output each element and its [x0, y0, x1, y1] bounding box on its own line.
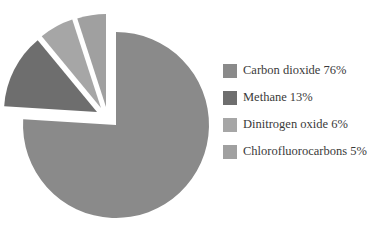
legend-swatch-icon [223, 118, 237, 132]
legend-swatch-icon [223, 64, 237, 78]
legend-item-carbon-dioxide: Carbon dioxide 76% [223, 57, 367, 84]
legend: Carbon dioxide 76% Methane 13% Dinitroge… [223, 57, 367, 165]
legend-swatch-icon [223, 145, 237, 159]
legend-item-methane: Methane 13% [223, 84, 367, 111]
legend-label: Chlorofluorocarbons 5% [243, 144, 367, 159]
legend-swatch-icon [223, 91, 237, 105]
legend-label: Dinitrogen oxide 6% [243, 117, 348, 132]
legend-item-dinitrogen-oxide: Dinitrogen oxide 6% [223, 111, 367, 138]
legend-item-chlorofluorocarbons: Chlorofluorocarbons 5% [223, 138, 367, 165]
legend-label: Methane 13% [243, 90, 313, 105]
legend-label: Carbon dioxide 76% [243, 63, 346, 78]
